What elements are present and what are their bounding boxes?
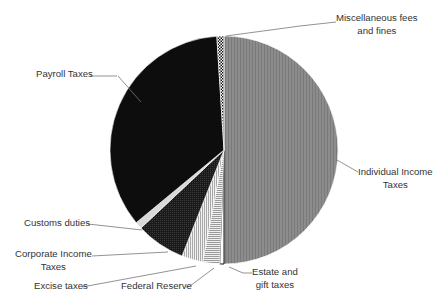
label-corporate: Corporate Income Taxes	[15, 248, 92, 273]
label-misc: Miscellaneous fees and fines	[336, 12, 418, 37]
label-individual: Individual Income Taxes	[358, 166, 433, 191]
leader-individual	[337, 160, 358, 172]
label-customs: Customs duties	[24, 217, 90, 230]
leader-misc	[226, 22, 336, 36]
pie-slice-individual-income-taxes	[224, 36, 338, 264]
label-fedreserve: Federal Reserve	[121, 280, 192, 293]
label-excise: Excise taxes	[34, 280, 88, 293]
label-payroll: Payroll Taxes	[36, 68, 93, 81]
leader-estate	[229, 267, 252, 273]
leader-corporate	[92, 252, 168, 256]
label-estate: Estate and gift taxes	[252, 266, 298, 291]
pie-slices	[110, 36, 338, 264]
leader-customs	[88, 224, 142, 230]
